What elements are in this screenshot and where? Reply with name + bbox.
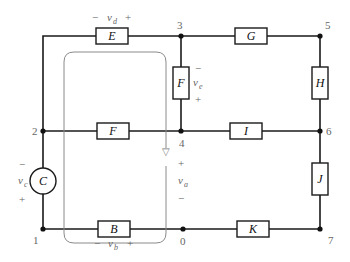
node-6-dot [317, 128, 322, 133]
vd-base: v [107, 11, 112, 23]
node-1-dot [40, 226, 45, 231]
vb-plus: + [127, 237, 133, 249]
element-f: F [97, 123, 129, 139]
element-b: B [98, 221, 130, 237]
node-5-dot [317, 33, 322, 38]
vd-sub: d [113, 17, 118, 26]
element-b-label: B [110, 222, 118, 236]
element-k-label: K [248, 222, 258, 236]
node-7-label: 7 [328, 234, 334, 246]
vd-plus: + [125, 11, 131, 23]
element-g: G [235, 28, 267, 44]
element-e-label: F [176, 76, 185, 90]
vc-minus: − [19, 158, 25, 170]
node-6-label: 6 [326, 125, 332, 137]
va-sub: a [184, 180, 188, 189]
node-2-dot [40, 128, 45, 133]
element-f-label: F [108, 124, 117, 138]
vc-sub: c [24, 180, 28, 189]
element-c-source: C [30, 168, 56, 194]
vc-plus: + [19, 193, 25, 205]
node-3-label: 3 [177, 19, 183, 31]
ve-base: v [193, 76, 198, 88]
node-5-label: 5 [325, 19, 331, 31]
voltage-vc: − v c + [18, 158, 28, 205]
voltage-vb: − v b + [94, 237, 133, 252]
element-h: H [312, 67, 328, 99]
voltage-vd: − v d + [92, 11, 131, 26]
vc-base: v [18, 174, 23, 186]
node-labels: 3 5 2 4 6 1 0 7 [32, 19, 334, 247]
element-d: E [96, 28, 128, 44]
node-7-dot [317, 226, 322, 231]
element-j: J [312, 163, 328, 195]
element-c-label: C [39, 174, 48, 188]
element-e: F [173, 67, 189, 99]
voltage-va: + v a − [178, 157, 188, 204]
element-h-label: H [315, 76, 326, 90]
vb-minus: − [94, 237, 100, 249]
node-4-dot [178, 128, 183, 133]
ve-minus: − [195, 62, 201, 74]
node-4-label: 4 [179, 137, 185, 149]
vd-minus: − [92, 11, 98, 23]
va-base: v [178, 174, 183, 186]
vb-sub: b [114, 243, 118, 252]
node-1-label: 1 [33, 234, 39, 246]
loop-arrow-icon: ▽ [162, 146, 170, 157]
element-k: K [237, 221, 269, 237]
mesh-loop: ▽ [64, 52, 170, 243]
node-0-dot [180, 226, 185, 231]
node-3-dot [178, 33, 183, 38]
element-g-label: G [247, 29, 256, 43]
element-d-label: E [107, 29, 116, 43]
element-i: I [230, 123, 262, 139]
element-j-label: J [317, 172, 323, 186]
ve-sub: e [199, 82, 203, 91]
va-minus: − [178, 192, 184, 204]
loop-path [64, 52, 166, 243]
vb-base: v [108, 237, 113, 249]
circuit-diagram: ▽ E G F H F I J B K [0, 0, 350, 262]
voltage-ve: − v e + [193, 62, 203, 105]
ve-plus: + [195, 93, 201, 105]
va-plus: + [178, 157, 184, 169]
node-0-label: 0 [180, 235, 186, 247]
node-2-label: 2 [32, 125, 38, 137]
